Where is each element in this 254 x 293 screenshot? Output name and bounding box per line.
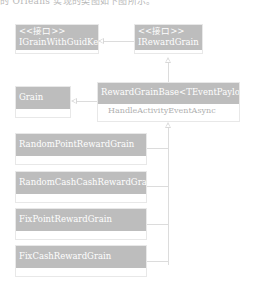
class-name: RandomCashCashRewardGrain	[19, 177, 143, 188]
connector-line	[168, 62, 169, 84]
class-stereotype: <<接口>>	[138, 26, 199, 37]
inheritance-arrow-icon	[98, 38, 104, 44]
class-fix-point-reward-grain: FixPointRewardGrain	[15, 208, 147, 240]
class-igrain-with-guid-key: <<接口>> IGrainWithGuidKey	[15, 24, 99, 54]
class-name: RandomPointRewardGrain	[19, 139, 143, 150]
class-name: IRewardGrain	[138, 37, 199, 48]
class-name: FixPointRewardGrain	[19, 214, 143, 225]
class-ireward-grain: <<接口>> IRewardGrain	[134, 24, 203, 54]
class-header: RandomPointRewardGrain	[16, 134, 146, 156]
class-grain: Grain	[15, 86, 71, 118]
inheritance-arrow-icon	[71, 98, 77, 104]
class-header: FixCashRewardGrain	[16, 246, 146, 268]
class-name: Grain	[19, 92, 67, 103]
connector-line	[147, 148, 168, 149]
inheritance-arrow-icon	[165, 122, 171, 128]
class-name: RewardGrainBase<TEventPayload>	[101, 87, 236, 98]
class-header: RewardGrainBase<TEventPayload>	[98, 83, 239, 104]
connector-line	[77, 101, 97, 102]
intro-text: 的 Orleans 实现的类图如下图所示。	[0, 0, 254, 7]
connector-line	[147, 186, 168, 187]
class-random-cash-reward-grain: RandomCashCashRewardGrain	[15, 171, 147, 203]
connector-line	[104, 41, 134, 42]
class-header: <<接口>> IGrainWithGuidKey	[16, 25, 98, 50]
realization-arrow-icon	[165, 57, 171, 63]
class-name: IGrainWithGuidKey	[19, 37, 95, 48]
class-header: Grain	[16, 87, 70, 109]
class-stereotype: <<接口>>	[19, 26, 95, 37]
class-header: <<接口>> IRewardGrain	[135, 25, 202, 50]
class-header: RandomCashCashRewardGrain	[16, 172, 146, 194]
connector-line	[147, 261, 168, 262]
class-reward-grain-base: RewardGrainBase<TEventPayload> HandleAct…	[97, 82, 240, 122]
class-header: FixPointRewardGrain	[16, 209, 146, 231]
class-name: FixCashRewardGrain	[19, 251, 143, 262]
class-member: HandleActivityEventAsync	[98, 104, 239, 118]
connector-line	[168, 128, 169, 265]
class-fix-cash-reward-grain: FixCashRewardGrain	[15, 245, 147, 277]
class-random-point-reward-grain: RandomPointRewardGrain	[15, 133, 147, 165]
connector-line	[147, 224, 168, 225]
